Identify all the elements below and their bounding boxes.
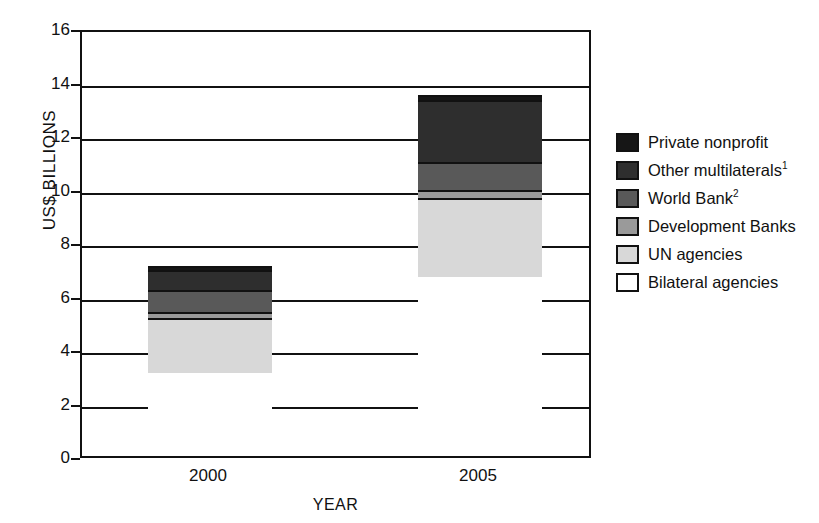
legend-item-bilateral-agencies[interactable]: Bilateral agencies xyxy=(616,268,816,296)
bar-2005[interactable] xyxy=(418,95,542,456)
bar-segment-private-nonprofit[interactable] xyxy=(148,266,272,270)
y-tick-mark xyxy=(71,244,80,246)
legend-item-other-multilaterals[interactable]: Other multilaterals1 xyxy=(616,156,816,184)
y-tick-label: 12 xyxy=(42,127,70,147)
y-tick-label: 8 xyxy=(42,234,70,254)
legend-label: Other multilaterals1 xyxy=(648,160,787,180)
y-tick-mark xyxy=(71,405,80,407)
legend-label: World Bank2 xyxy=(648,188,739,208)
bar-segment-other-multilaterals[interactable] xyxy=(148,270,272,290)
x-axis-title: YEAR xyxy=(80,496,591,514)
y-tick-mark xyxy=(71,298,80,300)
y-tick-mark xyxy=(71,137,80,139)
y-axis-tick-labels: 0246810121416 xyxy=(40,0,70,523)
bar-segment-bilateral-agencies[interactable] xyxy=(418,277,542,456)
bar-segment-bilateral-agencies[interactable] xyxy=(148,373,272,456)
y-tick-label: 4 xyxy=(42,341,70,361)
legend-label: Development Banks xyxy=(648,217,796,236)
gridline xyxy=(82,86,589,88)
y-tick-label: 0 xyxy=(42,448,70,468)
bar-segment-private-nonprofit[interactable] xyxy=(418,95,542,100)
legend-item-private-nonprofit[interactable]: Private nonprofit xyxy=(616,128,816,156)
bar-segment-un-agencies[interactable] xyxy=(418,198,542,277)
legend: Private nonprofitOther multilaterals1Wor… xyxy=(616,128,816,296)
legend-swatch-icon xyxy=(616,161,639,180)
y-tick-label: 6 xyxy=(42,288,70,308)
legend-swatch-icon xyxy=(616,217,639,236)
bar-segment-un-agencies[interactable] xyxy=(148,318,272,373)
y-tick-mark xyxy=(71,458,80,460)
legend-item-world-bank[interactable]: World Bank2 xyxy=(616,184,816,212)
bar-segment-development-banks[interactable] xyxy=(418,190,542,198)
x-tick-label-2005: 2005 xyxy=(408,466,548,486)
stacked-bar-chart: US$ BILLIONS 0246810121416 20002005 YEAR… xyxy=(0,0,819,523)
y-tick-mark xyxy=(71,30,80,32)
y-tick-label: 14 xyxy=(42,74,70,94)
y-tick-mark xyxy=(71,191,80,193)
legend-swatch-icon xyxy=(616,245,639,264)
plot-area xyxy=(80,30,591,458)
y-tick-label: 16 xyxy=(42,20,70,40)
x-tick-label-2000: 2000 xyxy=(138,466,278,486)
legend-label: Private nonprofit xyxy=(648,133,768,152)
y-tick-label: 10 xyxy=(42,181,70,201)
legend-swatch-icon xyxy=(616,273,639,292)
y-tick-label: 2 xyxy=(42,395,70,415)
legend-swatch-icon xyxy=(616,133,639,152)
bar-2000[interactable] xyxy=(148,266,272,456)
legend-label: Bilateral agencies xyxy=(648,273,778,292)
legend-footnote-marker: 1 xyxy=(782,160,788,171)
legend-label: UN agencies xyxy=(648,245,742,264)
y-tick-mark xyxy=(71,351,80,353)
bar-segment-development-banks[interactable] xyxy=(148,312,272,319)
legend-footnote-marker: 2 xyxy=(733,188,739,199)
bar-segment-world-bank[interactable] xyxy=(148,290,272,311)
legend-item-development-banks[interactable]: Development Banks xyxy=(616,212,816,240)
bar-segment-world-bank[interactable] xyxy=(418,162,542,190)
legend-swatch-icon xyxy=(616,189,639,208)
bar-segment-other-multilaterals[interactable] xyxy=(418,100,542,162)
y-tick-mark xyxy=(71,84,80,86)
legend-item-un-agencies[interactable]: UN agencies xyxy=(616,240,816,268)
